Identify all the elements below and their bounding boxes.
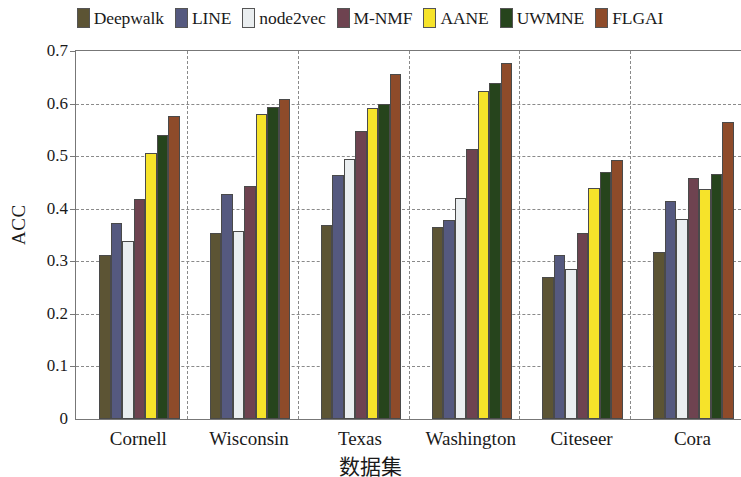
bar-citeseer-line xyxy=(554,255,566,419)
bar-cornell-flgai xyxy=(168,116,180,419)
legend-label: FLGAI xyxy=(612,9,663,27)
legend-swatch-icon xyxy=(500,8,513,28)
bar-cora-aane xyxy=(699,189,711,419)
bar-washington-line xyxy=(443,220,455,419)
bar-wisconsin-aane xyxy=(256,114,268,419)
legend-item-m-nmf: M-NMF xyxy=(337,8,413,28)
bar-group-cornell xyxy=(76,51,187,419)
bar-group-wisconsin xyxy=(187,51,298,419)
bar-citeseer-m-nmf xyxy=(577,233,589,419)
bar-washington-deepwalk xyxy=(432,227,444,419)
bar-group-citeseer xyxy=(519,51,630,419)
bar-wisconsin-uwmne xyxy=(267,107,279,419)
legend-label: node2vec xyxy=(259,9,325,27)
y-axis-tick-label: 0.2 xyxy=(47,304,68,321)
legend-swatch-icon xyxy=(175,8,188,28)
y-axis-title: ACC xyxy=(8,219,30,245)
x-axis-tick-label: Citeseer xyxy=(550,428,612,450)
bar-cornell-node2vec xyxy=(122,241,134,419)
bar-texas-aane xyxy=(367,108,379,419)
x-axis-tick-label: Washington xyxy=(426,428,516,450)
bar-wisconsin-line xyxy=(221,194,233,419)
y-axis-tick-labels: 00.10.20.30.40.50.60.7 xyxy=(30,36,72,477)
y-axis-tick-label: 0.4 xyxy=(47,199,68,216)
bar-wisconsin-m-nmf xyxy=(244,186,256,419)
bar-cora-uwmne xyxy=(711,174,723,420)
x-axis-tick-label: Wisconsin xyxy=(209,428,288,450)
legend-item-aane: AANE xyxy=(423,8,488,28)
legend-item-node2vec: node2vec xyxy=(242,8,325,28)
bar-texas-uwmne xyxy=(378,104,390,419)
bar-texas-line xyxy=(332,175,344,419)
bar-cora-node2vec xyxy=(676,219,688,419)
chart-plot-wrapper: ACC 00.10.20.30.40.50.60.7 CornellWiscon… xyxy=(0,36,740,477)
y-axis-tick-label: 0 xyxy=(60,410,69,427)
bar-cora-flgai xyxy=(722,122,734,419)
bar-wisconsin-node2vec xyxy=(233,231,245,419)
bar-washington-aane xyxy=(478,91,490,419)
plot-area xyxy=(75,50,741,420)
bar-texas-m-nmf xyxy=(355,131,367,419)
bar-texas-node2vec xyxy=(344,159,356,419)
legend-label: Deepwalk xyxy=(94,9,164,27)
bar-cornell-line xyxy=(111,223,123,419)
legend-label: M-NMF xyxy=(354,9,413,27)
y-axis-tick-label: 0.5 xyxy=(47,147,68,164)
bar-cora-deepwalk xyxy=(653,252,665,419)
bar-group-texas xyxy=(298,51,409,419)
legend-item-flgai: FLGAI xyxy=(595,8,663,28)
bar-texas-flgai xyxy=(390,74,402,419)
legend-label: LINE xyxy=(192,9,231,27)
bar-washington-flgai xyxy=(501,63,513,419)
legend-swatch-icon xyxy=(242,8,255,28)
legend-label: AANE xyxy=(440,9,488,27)
legend-item-deepwalk: Deepwalk xyxy=(77,8,164,28)
legend-item-uwmne: UWMNE xyxy=(500,8,585,28)
y-axis-tick-label: 0.1 xyxy=(47,357,68,374)
bar-washington-m-nmf xyxy=(466,149,478,419)
x-axis-tick-label: Cora xyxy=(674,428,711,450)
x-axis-tick-labels: CornellWisconsinTexasWashingtonCiteseerC… xyxy=(75,420,740,454)
legend-label: UWMNE xyxy=(517,9,585,27)
bar-group-cora xyxy=(630,51,741,419)
y-axis-tick-label: 0.3 xyxy=(47,252,68,269)
bar-citeseer-node2vec xyxy=(565,269,577,419)
bar-wisconsin-deepwalk xyxy=(210,233,222,419)
bar-citeseer-aane xyxy=(588,188,600,419)
legend-swatch-icon xyxy=(337,8,350,28)
legend-swatch-icon xyxy=(423,8,436,28)
bar-washington-uwmne xyxy=(489,83,501,419)
legend-swatch-icon xyxy=(595,8,608,28)
x-axis-tick-label: Texas xyxy=(338,428,382,450)
bar-texas-deepwalk xyxy=(321,225,333,420)
bar-cora-line xyxy=(665,201,677,419)
bar-group-washington xyxy=(409,51,520,419)
bar-wisconsin-flgai xyxy=(279,99,291,419)
bar-citeseer-flgai xyxy=(611,160,623,419)
x-axis-tick-label: Cornell xyxy=(110,428,167,450)
chart-legend: DeepwalkLINEnode2vecM-NMFAANEUWMNEFLGAI xyxy=(0,0,740,36)
bar-citeseer-uwmne xyxy=(600,172,612,419)
y-axis-tick-label: 0.7 xyxy=(47,42,68,59)
bar-washington-node2vec xyxy=(455,198,467,419)
x-axis-title: 数据集 xyxy=(0,450,740,477)
bar-cornell-m-nmf xyxy=(134,199,146,419)
bar-cornell-deepwalk xyxy=(99,255,111,419)
y-axis-tick-label: 0.6 xyxy=(47,94,68,111)
bar-citeseer-deepwalk xyxy=(542,277,554,419)
bar-cornell-aane xyxy=(145,153,157,419)
bar-cornell-uwmne xyxy=(157,135,169,419)
bar-cora-m-nmf xyxy=(688,178,700,419)
legend-swatch-icon xyxy=(77,8,90,28)
legend-item-line: LINE xyxy=(175,8,231,28)
